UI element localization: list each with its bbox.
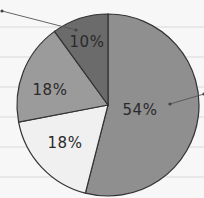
leader-dot [0, 9, 3, 12]
pie-chart: 54%18%18%10% [0, 0, 204, 198]
slice-label: 54% [123, 101, 158, 119]
leader-dot [202, 92, 204, 95]
leader-dot [168, 102, 171, 105]
slice-label: 10% [70, 33, 105, 51]
pie-slices [17, 14, 199, 196]
leader-dot [74, 28, 77, 31]
slice-label: 18% [48, 134, 83, 152]
slice-label: 18% [33, 81, 68, 99]
